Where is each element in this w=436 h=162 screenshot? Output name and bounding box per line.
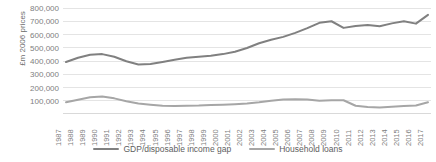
y-tick-label: 200,000 xyxy=(30,83,59,92)
y-axis-tick-labels: 800,000700,000600,000500,000400,000300,0… xyxy=(0,0,62,120)
y-tick-label: 800,000 xyxy=(30,4,59,13)
x-axis-tick-labels: 1987198819891990199119921993199419951996… xyxy=(63,114,431,146)
plot-svg xyxy=(63,8,431,114)
chart-legend: GDP/disposable income gap Household loan… xyxy=(0,144,436,154)
y-tick-label: 500,000 xyxy=(30,43,59,52)
y-tick-label: 700,000 xyxy=(30,17,59,26)
y-tick-label: 400,000 xyxy=(30,57,59,66)
y-tick-label: 300,000 xyxy=(30,70,59,79)
legend-swatch-gdp-disposable-income-gap xyxy=(93,148,119,150)
legend-item-household-loans: Household loans xyxy=(249,144,342,154)
legend-label-gdp-disposable-income-gap: GDP/disposable income gap xyxy=(123,144,231,154)
line-chart: £m 2006 prices 800,000700,000600,000500,… xyxy=(0,0,436,162)
y-tick-label: 600,000 xyxy=(30,30,59,39)
legend-swatch-household-loans xyxy=(249,148,275,150)
legend-item-gdp-disposable-income-gap: GDP/disposable income gap xyxy=(93,144,231,154)
plot-area xyxy=(63,8,431,114)
y-tick-label: 100,000 xyxy=(30,96,59,105)
legend-label-household-loans: Household loans xyxy=(279,144,342,154)
